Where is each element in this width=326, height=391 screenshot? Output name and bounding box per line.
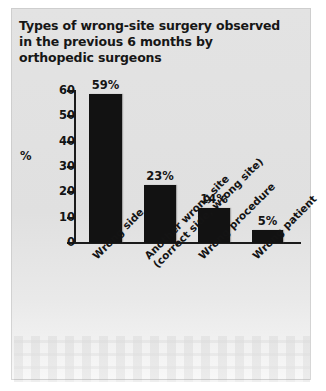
bar-value-label: 23%: [135, 170, 185, 182]
bar: [89, 94, 122, 243]
y-tick-label-row: 0: [30, 237, 75, 249]
y-tick-label-row: 10: [30, 212, 75, 224]
y-tick-label-row: 50: [30, 110, 75, 122]
y-tick-label-row: 30: [30, 161, 75, 173]
y-tick-label-row: 40: [30, 136, 75, 148]
y-tick-label: 0: [49, 237, 75, 248]
y-tick-label: 20: [49, 186, 75, 197]
y-tick-label: 30: [49, 161, 75, 172]
y-tick-label: 10: [49, 212, 75, 223]
bar-value-label: 59%: [80, 79, 131, 91]
scanned-page: Types of wrong-site surgery observed in …: [0, 0, 326, 391]
y-tick-label: 50: [49, 110, 75, 121]
bar-chart-plot-area: % 0102030405060 59%23%14%5% Wrong sideAn…: [0, 0, 326, 391]
y-tick-label: 60: [49, 85, 75, 96]
y-tick-label-row: 60: [30, 85, 75, 97]
y-tick-label: 40: [49, 136, 75, 147]
y-tick-label-row: 20: [30, 186, 75, 198]
